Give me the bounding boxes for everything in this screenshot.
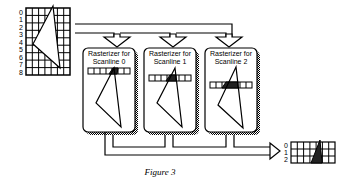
input-grid: 0 1 2 3 4 5 6 7 8	[19, 6, 70, 76]
svg-text:Scanline 0: Scanline 0	[93, 58, 126, 65]
svg-text:1: 1	[19, 16, 23, 23]
svg-text:2: 2	[284, 156, 288, 163]
svg-text:7: 7	[19, 61, 23, 68]
svg-text:Rasterizer for: Rasterizer for	[210, 50, 253, 57]
svg-text:5: 5	[19, 46, 23, 53]
scanline-cells	[210, 82, 252, 88]
input-row-labels: 0 1 2 3 4 5 6 7 8	[19, 9, 23, 76]
svg-text:Rasterizer for: Rasterizer for	[88, 50, 131, 57]
svg-text:0: 0	[284, 142, 288, 149]
arrow-down-icon	[160, 34, 186, 47]
svg-text:2: 2	[19, 24, 23, 31]
svg-text:0: 0	[19, 9, 23, 16]
svg-text:Scanline 1: Scanline 1	[154, 58, 187, 65]
svg-text:1: 1	[284, 149, 288, 156]
svg-text:6: 6	[19, 54, 23, 61]
rasterizer-box-1: Rasterizer for Scanline 1	[144, 48, 199, 135]
input-bus	[75, 24, 242, 47]
arrow-right-icon	[270, 143, 280, 159]
svg-text:Rasterizer for: Rasterizer for	[149, 50, 192, 57]
svg-text:Scanline 2: Scanline 2	[215, 58, 248, 65]
figure-caption: Figure 3	[144, 167, 176, 177]
output-bus	[105, 132, 280, 159]
svg-text:3: 3	[19, 31, 23, 38]
arrow-down-icon	[104, 34, 130, 47]
arrow-down-icon	[216, 34, 242, 47]
rasterizer-diagram: 0 1 2 3 4 5 6 7 8 Rasterizer for Scanlin…	[0, 0, 352, 179]
scanline-cells	[88, 68, 130, 74]
svg-text:8: 8	[19, 69, 23, 76]
rasterizer-box-0: Rasterizer for Scanline 0	[83, 48, 138, 135]
svg-text:4: 4	[19, 39, 23, 46]
rasterizer-box-2: Rasterizer for Scanline 2	[205, 48, 260, 135]
output-grid: 0 1 2	[284, 140, 335, 163]
